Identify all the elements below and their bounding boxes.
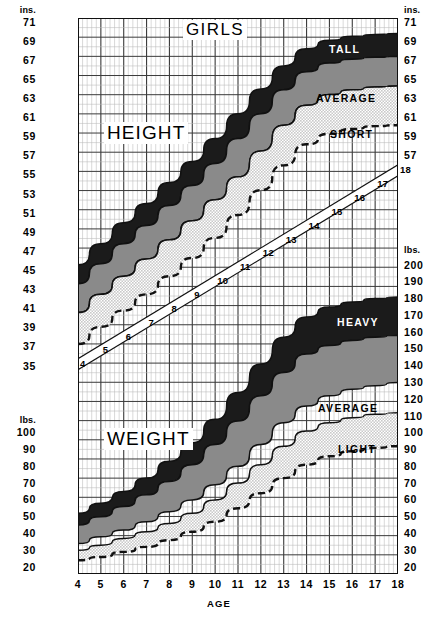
- diagonal-age-label-13: 13: [286, 234, 297, 245]
- x-tick-5: 5: [98, 578, 104, 590]
- right-weight-tick-100: 100: [404, 427, 423, 438]
- left-height-tick-39: 39: [23, 322, 36, 333]
- weight-section-label: WEIGHT: [104, 428, 193, 450]
- x-tick-14: 14: [300, 578, 313, 590]
- right-height-tick-69: 69: [404, 36, 417, 47]
- band-label-light: LIGHT: [338, 443, 376, 455]
- x-tick-15: 15: [323, 578, 336, 590]
- diagonal-age-label-16: 16: [354, 192, 365, 203]
- left-weight-tick-100: 100: [17, 427, 36, 438]
- x-tick-18: 18: [392, 578, 405, 590]
- diagonal-age-label-17: 17: [377, 178, 388, 189]
- right-height-tick-67: 67: [404, 55, 417, 66]
- x-axis-ticks: 456789101112131415161718: [78, 578, 398, 598]
- left-height-tick-41: 41: [23, 303, 36, 314]
- left-weight-tick-60: 60: [23, 494, 36, 505]
- right-height-tick-71: 71: [404, 17, 417, 28]
- x-tick-13: 13: [277, 578, 290, 590]
- diagonal-age-label-15: 15: [331, 206, 342, 217]
- left-height-tick-71: 71: [23, 17, 36, 28]
- right-weight-tick-140: 140: [404, 360, 423, 371]
- page-title: GIRLS: [183, 20, 247, 40]
- left-axis: 71696765636159575553514947454341393735in…: [0, 0, 40, 640]
- left-height-tick-69: 69: [23, 36, 36, 47]
- left-height-tick-57: 57: [23, 150, 36, 161]
- x-axis-title: AGE: [0, 598, 438, 609]
- right-weight-tick-50: 50: [404, 511, 417, 522]
- left-height-tick-53: 53: [23, 189, 36, 200]
- left-height-tick-49: 49: [23, 227, 36, 238]
- right-weight-tick-110: 110: [404, 411, 423, 422]
- right-weight-tick-30: 30: [404, 545, 417, 556]
- right-axis: 7169676563615957ins.20019018017016015014…: [398, 0, 438, 640]
- right-weight-tick-90: 90: [404, 444, 417, 455]
- band-label-tall: TALL: [329, 43, 360, 55]
- right-weight-tick-20: 20: [404, 562, 417, 573]
- right-weight-tick-170: 170: [404, 310, 423, 321]
- diagonal-age-label-4: 4: [80, 358, 86, 369]
- left-weight-tick-30: 30: [23, 545, 36, 556]
- left-weight-unit: lbs.: [20, 416, 36, 425]
- x-tick-7: 7: [143, 578, 149, 590]
- left-height-tick-51: 51: [23, 208, 36, 219]
- right-weight-tick-150: 150: [404, 343, 423, 354]
- right-weight-tick-130: 130: [404, 377, 423, 388]
- right-height-tick-57: 57: [404, 150, 417, 161]
- diagonal-age-label-14: 14: [309, 220, 320, 231]
- right-weight-tick-190: 190: [404, 276, 423, 287]
- left-weight-tick-90: 90: [23, 444, 36, 455]
- band-label-short: SHORT: [330, 128, 373, 140]
- left-height-tick-47: 47: [23, 246, 36, 257]
- x-tick-10: 10: [209, 578, 222, 590]
- diagonal-age-label-18: 18: [400, 164, 411, 175]
- left-height-tick-35: 35: [23, 361, 36, 372]
- growth-chart-page: 71696765636159575553514947454341393735in…: [0, 0, 438, 640]
- x-tick-9: 9: [189, 578, 195, 590]
- left-height-tick-61: 61: [23, 112, 36, 123]
- x-tick-4: 4: [75, 578, 81, 590]
- diagonal-age-label-11: 11: [240, 261, 251, 272]
- band-label-weight-average: AVERAGE: [318, 402, 378, 414]
- left-height-tick-65: 65: [23, 74, 36, 85]
- left-weight-tick-40: 40: [23, 528, 36, 539]
- right-height-unit: ins.: [404, 6, 420, 15]
- right-weight-tick-40: 40: [404, 528, 417, 539]
- right-weight-tick-120: 120: [404, 394, 423, 405]
- x-tick-6: 6: [120, 578, 126, 590]
- right-weight-tick-200: 200: [404, 260, 423, 271]
- x-tick-17: 17: [369, 578, 382, 590]
- right-height-tick-63: 63: [404, 93, 417, 104]
- diagonal-age-label-10: 10: [217, 275, 228, 286]
- left-height-tick-37: 37: [23, 341, 36, 352]
- left-weight-tick-20: 20: [23, 562, 36, 573]
- band-label-heavy: HEAVY: [337, 316, 379, 328]
- left-weight-tick-80: 80: [23, 461, 36, 472]
- x-tick-8: 8: [166, 578, 172, 590]
- left-height-tick-43: 43: [23, 284, 36, 295]
- diagonal-age-label-9: 9: [194, 289, 200, 300]
- left-height-unit: ins.: [20, 6, 36, 15]
- right-weight-tick-60: 60: [404, 494, 417, 505]
- left-weight-tick-70: 70: [23, 478, 36, 489]
- right-weight-tick-80: 80: [404, 461, 417, 472]
- diagonal-age-label-6: 6: [126, 331, 132, 342]
- right-weight-tick-160: 160: [404, 327, 423, 338]
- left-weight-tick-50: 50: [23, 511, 36, 522]
- left-height-tick-55: 55: [23, 169, 36, 180]
- diagonal-age-label-5: 5: [103, 344, 109, 355]
- right-weight-unit: lbs.: [404, 246, 420, 255]
- height-section-label: HEIGHT: [104, 122, 188, 144]
- x-tick-16: 16: [346, 578, 359, 590]
- left-height-tick-63: 63: [23, 93, 36, 104]
- left-height-tick-45: 45: [23, 265, 36, 276]
- diagonal-age-label-7: 7: [149, 317, 155, 328]
- diagonal-age-label-12: 12: [263, 247, 274, 258]
- right-height-tick-59: 59: [404, 131, 417, 142]
- right-weight-tick-70: 70: [404, 478, 417, 489]
- x-tick-12: 12: [254, 578, 267, 590]
- left-height-tick-67: 67: [23, 55, 36, 66]
- right-height-tick-65: 65: [404, 74, 417, 85]
- right-weight-tick-180: 180: [404, 293, 423, 304]
- band-label-height-average: AVERAGE: [316, 92, 376, 104]
- right-height-tick-61: 61: [404, 112, 417, 123]
